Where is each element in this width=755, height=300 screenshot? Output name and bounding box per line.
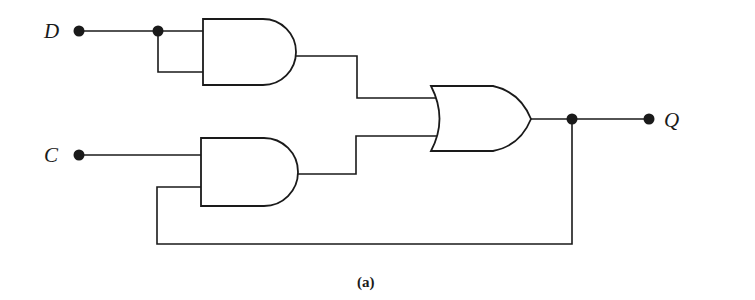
wire-d-to-and1-bottom	[158, 31, 203, 72]
or-gate	[431, 86, 531, 151]
and-gate-2	[201, 138, 298, 206]
input-label-c: C	[44, 143, 59, 167]
input-label-d: D	[43, 19, 59, 43]
latch-circuit-diagram: D C Q (a)	[0, 0, 755, 300]
output-label-q: Q	[664, 108, 679, 132]
wire-and2-to-or	[298, 136, 438, 174]
and-gate-1	[203, 19, 296, 85]
wire-and1-to-or	[296, 56, 438, 98]
figure-caption: (a)	[357, 274, 375, 291]
output-terminal-q	[644, 114, 655, 125]
